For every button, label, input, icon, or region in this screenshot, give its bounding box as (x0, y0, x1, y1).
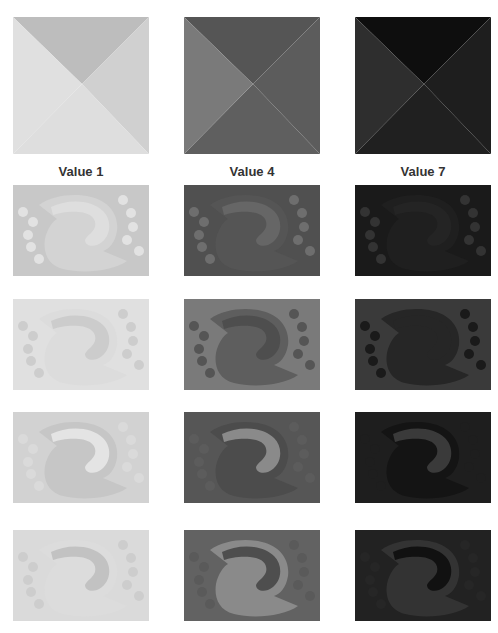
pyramid-swatch (13, 17, 149, 154)
dot (368, 242, 378, 252)
dot (470, 567, 480, 577)
swirl-panel (355, 412, 491, 503)
pyramid-swatch (184, 17, 320, 154)
dot (122, 235, 132, 245)
dot (297, 322, 307, 332)
column-label: Value 4 (184, 164, 320, 179)
dot (299, 336, 309, 346)
dot (464, 235, 474, 245)
dot (197, 242, 207, 252)
dot (134, 473, 144, 483)
dot (297, 435, 307, 445)
dot (468, 322, 478, 332)
dot (26, 356, 36, 366)
dot (23, 230, 33, 240)
dot (205, 254, 215, 264)
dot (134, 591, 144, 601)
dot (199, 562, 209, 572)
dot (197, 469, 207, 479)
dot (23, 575, 33, 585)
dot (289, 195, 299, 205)
dot (370, 562, 380, 572)
dot (297, 553, 307, 563)
dot (126, 208, 136, 218)
dot (194, 575, 204, 585)
dot (128, 567, 138, 577)
dot (305, 591, 315, 601)
dot (128, 336, 138, 346)
swirl-panel (184, 299, 320, 390)
dot (118, 309, 128, 319)
dot (18, 207, 28, 217)
dot (199, 444, 209, 454)
dot (360, 207, 370, 217)
dot (297, 208, 307, 218)
dot (468, 553, 478, 563)
dot (299, 222, 309, 232)
dot (189, 434, 199, 444)
swirl-panel (13, 530, 149, 621)
dot (365, 575, 375, 585)
swirl-panel (355, 185, 491, 276)
swirl-panel (13, 299, 149, 390)
dot (122, 349, 132, 359)
dot (34, 481, 44, 491)
swirl-panel (184, 530, 320, 621)
dot (18, 552, 28, 562)
dot (118, 195, 128, 205)
dot (199, 331, 209, 341)
dot (368, 587, 378, 597)
dot (118, 540, 128, 550)
dot (370, 444, 380, 454)
dot (470, 222, 480, 232)
dot (194, 230, 204, 240)
dot (126, 322, 136, 332)
dot (468, 435, 478, 445)
dot (197, 587, 207, 597)
dot (126, 553, 136, 563)
swirl-panel (355, 299, 491, 390)
dot (293, 462, 303, 472)
dot (34, 368, 44, 378)
dot (289, 309, 299, 319)
dot (26, 242, 36, 252)
dot (476, 360, 486, 370)
dot (376, 481, 386, 491)
dot (194, 344, 204, 354)
dot (189, 552, 199, 562)
dot (365, 230, 375, 240)
dot (289, 540, 299, 550)
dot (468, 208, 478, 218)
dot (464, 580, 474, 590)
dot (460, 422, 470, 432)
dot (194, 457, 204, 467)
dot (128, 449, 138, 459)
dot (370, 217, 380, 227)
dot (122, 580, 132, 590)
dot (118, 422, 128, 432)
dot (23, 344, 33, 354)
dot (376, 254, 386, 264)
dot (34, 599, 44, 609)
dot (365, 344, 375, 354)
dot (305, 360, 315, 370)
dot (205, 481, 215, 491)
dot (189, 207, 199, 217)
pyramid-swatch (355, 17, 491, 154)
dot (18, 321, 28, 331)
dot (122, 462, 132, 472)
dot (26, 587, 36, 597)
dot (305, 246, 315, 256)
dot (293, 349, 303, 359)
dot (365, 457, 375, 467)
dot (368, 356, 378, 366)
dot (460, 309, 470, 319)
dot (205, 599, 215, 609)
dot (470, 449, 480, 459)
dot (299, 449, 309, 459)
dot (464, 462, 474, 472)
dot (476, 246, 486, 256)
dot (464, 349, 474, 359)
dot (376, 599, 386, 609)
dot (460, 540, 470, 550)
